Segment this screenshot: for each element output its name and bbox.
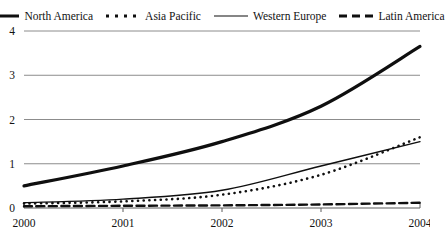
y-tick-label: 3 (9, 69, 15, 81)
x-tick-label: 2003 (310, 217, 333, 229)
series-line-western-europe (24, 142, 420, 203)
x-axis-tick-labels: 20002001200220032004 (13, 217, 431, 229)
x-tick-label: 2001 (112, 217, 135, 229)
y-tick-label: 1 (9, 158, 15, 170)
series-lines (24, 46, 420, 206)
x-tick-label: 2004 (409, 217, 431, 229)
y-axis-tick-labels: 01234 (9, 25, 15, 214)
gridlines (24, 31, 420, 208)
y-tick-label: 2 (9, 114, 15, 126)
series-line-north-america (24, 46, 420, 185)
x-tick-label: 2002 (211, 217, 234, 229)
series-line-asia-pacific (24, 137, 420, 203)
series-line-latin-america (24, 203, 420, 207)
y-tick-label: 4 (9, 25, 15, 37)
x-tick-label: 2000 (13, 217, 36, 229)
y-tick-label: 0 (9, 202, 15, 214)
